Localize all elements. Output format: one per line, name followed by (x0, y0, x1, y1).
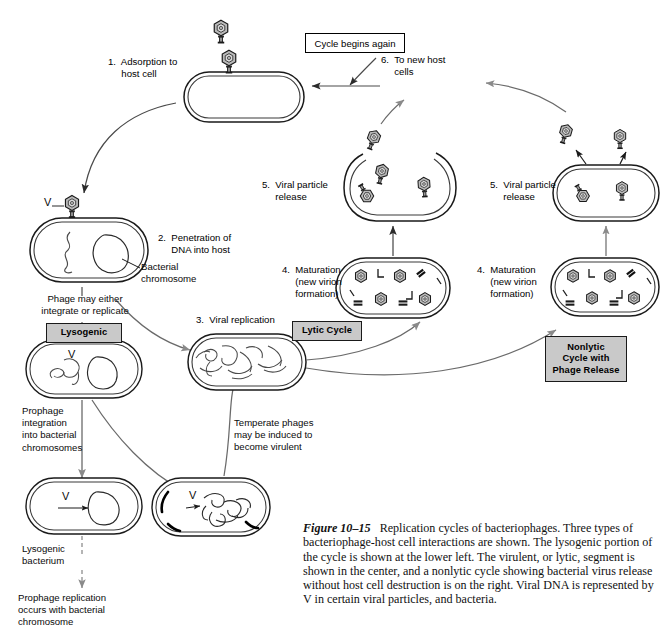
host-cell-adsorption (184, 72, 304, 122)
arrow-nonlytic-release-right (620, 152, 626, 164)
lysed-cell (344, 153, 456, 221)
arrow-adsorption-to-penetration (84, 103, 176, 193)
nonlytic-cycle-badge-text: Nonlytic Cycle with Phage Release (553, 342, 620, 376)
bacterial-chromosome-label: Bacterial chromosome (141, 261, 196, 285)
lysogenic-bacterium-label: Lysogenic bacterium (22, 543, 65, 567)
prophage-replication-label: Prophage replication occurs with bacteri… (18, 592, 106, 629)
bacteriophage-icon-free-top (214, 20, 227, 43)
arrow-nonlytic-to-cycle (486, 83, 566, 112)
prophage-cell (26, 478, 142, 534)
step-5-lytic-label: 5. Viral particle release (262, 179, 328, 203)
viral-replication-cell (188, 334, 306, 390)
bacteriophage-icon-released-nonlytic-left (557, 123, 573, 145)
nonlytic-maturation-cell (551, 258, 659, 316)
step-3-label: 3. Viral replication (196, 314, 275, 326)
step-5-nonlytic-label: 5. Viral particle release (490, 179, 556, 203)
induced-temperate-cell (152, 478, 270, 536)
step-4-lytic-label: 4. Maturation (new virion formation) (282, 264, 342, 301)
phage-choice-label: Phage may either integrate or replicate (24, 293, 146, 317)
bacteriophage-icon-adsorbed (222, 50, 235, 73)
bacteriophage-icon-released-lytic (364, 129, 382, 152)
step-4-nonlytic-label: 4. Maturation (new virion formation) (477, 264, 537, 301)
step-1-label: 1. Adsorption to host cell (108, 56, 177, 80)
arrow-nonlytic-release-left (576, 150, 586, 164)
figure-number: Figure 10–15 (303, 521, 371, 535)
figure-caption-spacer (371, 521, 380, 535)
figure-canvas: 1. Adsorption to host cell 2. Penetratio… (0, 0, 662, 644)
temperate-phages-label: Temperate phages may be induced to becom… (234, 417, 313, 454)
cycle-begins-again-box[interactable]: Cycle begins again (305, 33, 405, 53)
penetration-cell (30, 218, 148, 282)
arrow-lysogenic-to-induced (92, 400, 182, 490)
arrow-to-new-host-cells (381, 100, 404, 124)
viral-dna-v-induced: V (189, 489, 196, 501)
lytic-cycle-badge[interactable]: Lytic Cycle (292, 321, 362, 341)
viral-dna-v-prophage: V (62, 490, 69, 502)
figure-caption: Figure 10–15 Replication cycles of bacte… (303, 521, 655, 607)
bacteriophage-icon-released-nonlytic-right (614, 129, 625, 149)
nonlytic-cycle-badge[interactable]: Nonlytic Cycle with Phage Release (545, 336, 627, 382)
step-6-lytic-label: 6. To new host cells (381, 54, 445, 78)
lytic-maturation-cell (336, 258, 450, 318)
viral-dna-v-lysogenic: V (68, 348, 75, 360)
bacteriophage-icon-injecting (65, 195, 78, 218)
step-2-label: 2. Penetration of DNA into host (158, 232, 231, 256)
lysogenic-cell (26, 340, 142, 398)
arrow-cycle-begins-again (350, 58, 376, 85)
nonlytic-release-cell (553, 165, 659, 221)
lysogenic-badge[interactable]: Lysogenic (46, 323, 122, 343)
viral-dna-v-adsorbed: V (44, 196, 51, 208)
prophage-integration-label: Prophage integration into bacterial chro… (22, 405, 82, 454)
